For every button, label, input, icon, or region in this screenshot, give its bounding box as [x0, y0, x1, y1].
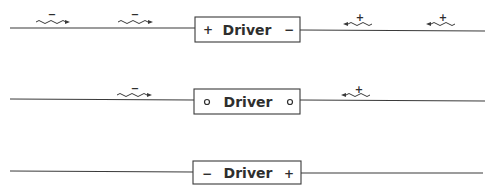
row-3: − Driver + — [10, 161, 483, 184]
wire-right — [300, 30, 485, 31]
arrow-left-icon — [343, 22, 348, 26]
charge-label: − — [131, 9, 139, 20]
wire-left — [10, 171, 193, 172]
arrow-left-icon — [341, 93, 346, 97]
carrier-2: + — [341, 84, 370, 97]
wave-icon — [36, 21, 66, 24]
arrow-right-icon — [147, 93, 152, 97]
driver-label: Driver — [223, 22, 272, 38]
right-terminal-sign: + — [284, 167, 294, 181]
wave-icon — [118, 21, 148, 24]
arrow-left-icon — [426, 22, 431, 26]
right-terminal-sign: − — [284, 23, 294, 37]
charge-label: + — [356, 12, 364, 23]
driver-label: Driver — [224, 94, 273, 110]
driver-label: Driver — [224, 165, 273, 181]
arrow-right-icon — [148, 20, 153, 24]
wire-right — [300, 100, 485, 101]
carrier-1: − — [36, 9, 70, 24]
carrier-3: + — [343, 12, 372, 26]
carrier-2: − — [118, 9, 153, 24]
wave-icon — [117, 94, 147, 97]
charge-label: + — [439, 12, 447, 23]
charge-label: − — [48, 9, 56, 20]
carrier-1: − — [117, 83, 152, 97]
driver-polarity-diagram: + Driver − − − + + Driver — [0, 0, 493, 194]
row-2: Driver − + — [10, 83, 485, 114]
carrier-4: + — [426, 12, 455, 26]
left-terminal-sign: + — [203, 23, 213, 37]
row-1: + Driver − − − + + — [10, 9, 485, 42]
charge-label: − — [131, 83, 139, 94]
arrow-right-icon — [65, 20, 70, 24]
wire-left — [10, 99, 194, 100]
left-terminal-sign: − — [202, 167, 212, 181]
